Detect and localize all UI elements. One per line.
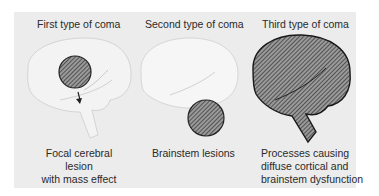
panel-1-caption: Focal cerebral lesion with mass effect (33, 147, 125, 186)
panel-2-caption: Brainstem lesions (152, 147, 235, 160)
brainstem-lesion-icon (188, 100, 224, 136)
brain-3-illustration (253, 35, 350, 142)
brain-2-illustration (141, 38, 238, 136)
brain-1-illustration (28, 38, 131, 138)
panel-1-title: First type of coma (37, 18, 120, 30)
focal-lesion-icon (59, 56, 91, 88)
panel-3-caption: Processes causing diffuse cortical and b… (261, 147, 363, 186)
panel-2-title: Second type of coma (145, 18, 244, 30)
panel-3-title: Third type of coma (262, 18, 349, 30)
